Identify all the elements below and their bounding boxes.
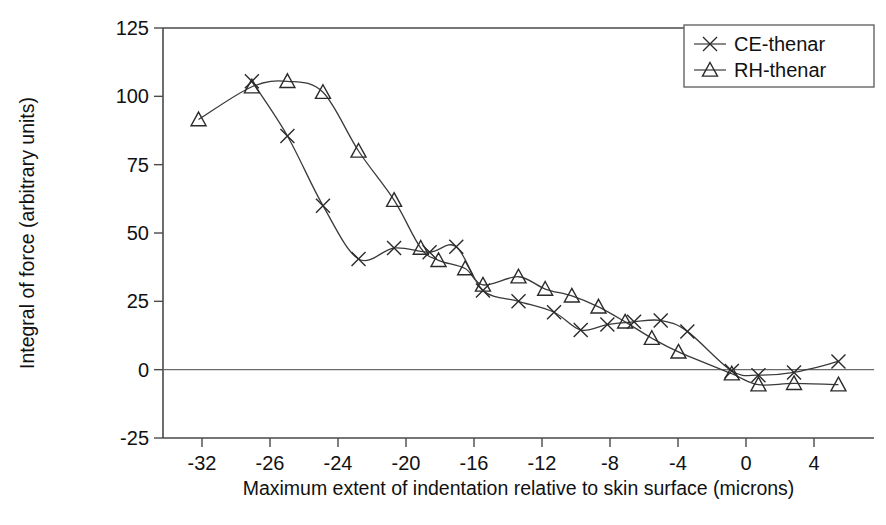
x-tick-label: -26: [256, 452, 285, 474]
x-axis-title: Maximum extent of indentation relative t…: [243, 477, 795, 499]
marker-x: [787, 365, 801, 379]
marker-x: [512, 294, 526, 308]
plot-frame: [163, 28, 874, 438]
legend-label: RH-thenar: [734, 59, 827, 81]
series-line: [199, 81, 839, 385]
marker-x: [449, 240, 463, 254]
marker-x: [680, 324, 694, 338]
x-tick-label: -4: [669, 452, 687, 474]
series-container: [191, 74, 846, 391]
series-rh-thenar: [191, 74, 846, 391]
x-tick-label: 4: [808, 452, 819, 474]
marker-x: [352, 252, 366, 266]
axes: [154, 28, 874, 447]
x-tick-label: -16: [460, 452, 489, 474]
x-tick-label: -24: [324, 452, 353, 474]
marker-x: [280, 129, 294, 143]
chart-svg: -250255075100125-32-26-24-20-16-12-8-404…: [0, 0, 886, 525]
marker-x: [547, 305, 561, 319]
y-tick-label: 0: [138, 359, 149, 381]
marker-triangle: [511, 269, 526, 283]
x-tick-label: -32: [188, 452, 217, 474]
series-line: [252, 81, 839, 375]
series-ce-thenar: [245, 74, 846, 382]
x-tick-label: -20: [392, 452, 421, 474]
legend-label: CE-thenar: [734, 33, 825, 55]
y-tick-label: 125: [116, 17, 149, 39]
y-axis-title: Integral of force (arbitrary units): [16, 97, 38, 369]
marker-x: [600, 318, 614, 332]
x-tick-label: -8: [601, 452, 619, 474]
y-tick-label: 25: [127, 290, 149, 312]
marker-x: [831, 354, 845, 368]
chart-figure: -250255075100125-32-26-24-20-16-12-8-404…: [0, 0, 886, 525]
y-tick-label: 100: [116, 85, 149, 107]
chart-legend[interactable]: CE-thenarRH-thenar: [684, 25, 874, 87]
x-tick-label: -12: [528, 452, 557, 474]
x-tick-label: 0: [740, 452, 751, 474]
y-tick-label: 50: [127, 222, 149, 244]
marker-x: [316, 199, 330, 213]
y-tick-label: -25: [120, 427, 149, 449]
y-tick-label: 75: [127, 154, 149, 176]
